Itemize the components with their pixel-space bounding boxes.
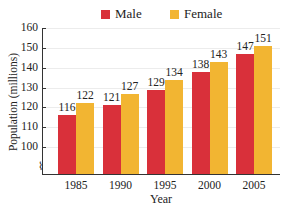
y-tick-label: 140 (14, 61, 38, 73)
bar-male-1995 (147, 90, 165, 174)
x-tick-label: 2000 (190, 179, 230, 191)
bar-value-label: 134 (159, 66, 189, 78)
bar-value-label: 143 (204, 48, 234, 60)
x-axis-line (42, 174, 280, 175)
bar-male-2000 (192, 72, 210, 174)
bar-male-2005 (236, 54, 254, 174)
y-tick-label: 130 (14, 81, 38, 93)
y-tick-label: 150 (14, 41, 38, 53)
gridline (43, 28, 280, 29)
x-tick-label: 1995 (145, 179, 185, 191)
bar-female-1995 (165, 80, 183, 174)
y-tick-mark (42, 88, 46, 89)
y-tick-mark (42, 28, 46, 29)
x-tick-label: 1985 (56, 179, 96, 191)
bar-male-1990 (103, 105, 121, 174)
y-tick-mark (42, 107, 46, 108)
y-tick-label: 100 (14, 140, 38, 152)
y-tick-mark (42, 127, 46, 128)
bar-female-2000 (210, 62, 228, 174)
y-tick-label: 110 (14, 120, 38, 132)
x-tick-label: 2005 (234, 179, 274, 191)
bar-value-label: 127 (115, 80, 145, 92)
bar-male-1985 (58, 115, 76, 174)
axis-break-icon: ⌇ (38, 160, 43, 173)
y-tick-label: 120 (14, 100, 38, 112)
x-axis-label: Year (0, 192, 298, 207)
bar-female-2005 (254, 46, 272, 174)
y-tick-label: 160 (14, 21, 38, 33)
chart-plot-area: ⌇ 10011012013014015016011612219851211271… (0, 0, 298, 207)
y-tick-mark (42, 68, 46, 69)
bar-female-1990 (121, 94, 139, 174)
y-tick-mark (42, 48, 46, 49)
y-tick-mark (42, 147, 46, 148)
bar-value-label: 122 (70, 89, 100, 101)
x-tick-label: 1990 (101, 179, 141, 191)
bar-female-1985 (76, 103, 94, 174)
bar-value-label: 151 (248, 32, 278, 44)
y-axis-line (42, 28, 43, 174)
